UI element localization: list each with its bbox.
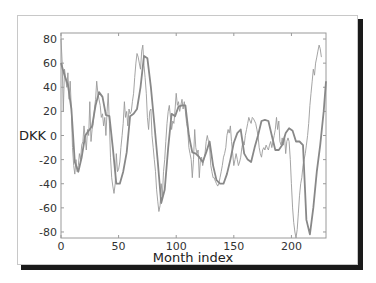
- series-line-raw: [61, 39, 321, 238]
- y-axis-label: DKK: [19, 128, 47, 143]
- line-chart: 806040200-20-40-60-80 050100150200 DKK M…: [0, 0, 376, 283]
- y-tick-label: -20: [39, 154, 57, 167]
- x-axis: 050100150200: [58, 33, 302, 253]
- x-tick-label: 50: [112, 240, 126, 253]
- y-tick-label: 40: [43, 81, 57, 94]
- y-tick-label: -80: [39, 226, 57, 239]
- y-tick-label: 80: [43, 33, 57, 46]
- y-axis: 806040200-20-40-60-80: [39, 33, 326, 239]
- y-tick-label: 0: [50, 130, 57, 143]
- x-tick-label: 0: [58, 240, 65, 253]
- y-tick-label: -60: [39, 202, 57, 215]
- y-tick-label: 20: [43, 105, 57, 118]
- series-group: [61, 39, 326, 238]
- x-tick-label: 200: [281, 240, 302, 253]
- plot-area: [61, 33, 326, 238]
- y-tick-label: -40: [39, 178, 57, 191]
- x-axis-label: Month index: [153, 250, 234, 265]
- y-tick-label: 60: [43, 57, 57, 70]
